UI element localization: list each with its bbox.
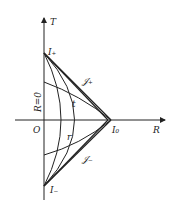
r-zero-label: R=0: [33, 92, 43, 113]
r-axis-label: R: [152, 125, 160, 135]
t-curve-lower: [44, 120, 111, 155]
diagram: T R O I₊ I₋ I₀ 𝒥₊ 𝒥₋ t r R=0: [0, 0, 171, 221]
t-curve-label: t: [72, 99, 76, 109]
i-zero-label: I₀: [111, 125, 120, 135]
scri-plus-label: 𝒥₊: [81, 76, 93, 86]
i-minus-label: I₋: [49, 185, 59, 195]
r-curve-label: r: [67, 132, 72, 142]
scri-plus-boundary: [44, 53, 111, 120]
origin-label: O: [33, 125, 41, 135]
scri-minus-boundary: [44, 120, 111, 186]
scri-minus-label: 𝒥₋: [81, 154, 93, 164]
i-plus-label: I₊: [47, 47, 57, 57]
t-axis-label: T: [50, 17, 57, 27]
